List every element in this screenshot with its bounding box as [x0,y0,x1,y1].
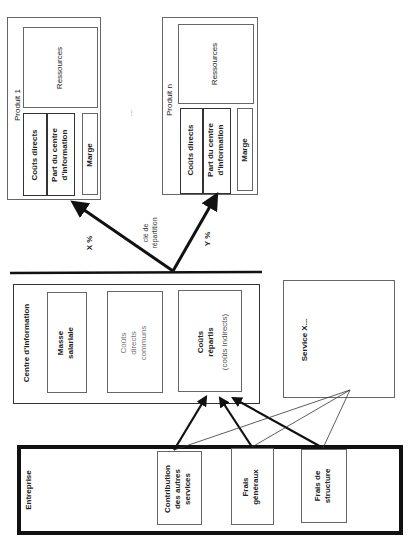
product-n-direct-costs-label: Coûts directs [186,115,196,185]
product-n-info-center-share-label: Part du centre d'information [206,115,228,185]
arrow-overhead-to-allocated [220,398,252,447]
payroll-line1: Masse [56,313,66,373]
payroll-line2: salariale [66,313,76,373]
allocated-line2: répartis [206,310,216,374]
common-direct-line2: directs [129,312,139,374]
contribution-label: Contribution des autres services [163,456,195,522]
product-1-info-share-line1: Part du centre [50,120,60,190]
service-x-title: Service X... [300,310,310,370]
product-1-info-share-line2: d'information [60,120,70,190]
company-title: Entreprise [24,465,34,515]
common-direct-costs-label: Coûts directs communs [119,312,151,374]
common-direct-line3: communs [139,312,149,374]
contribution-line2: des autres [173,456,183,522]
contribution-line3: services [183,456,193,522]
overhead-label: Frais généraux [241,457,263,517]
product-n-info-share-line1: Part du centre [206,115,216,185]
overhead-line2: généraux [251,457,261,517]
payroll-label: Masse salariale [56,313,78,373]
y-percent-label: Y % [203,224,213,254]
arrow-contribution-to-allocated [174,397,206,450]
product-1-info-center-share-label: Part du centre d'information [50,120,72,190]
structure-label: Frais de structure [313,456,335,516]
overhead-line1: Frais [241,457,251,517]
arrow-structure-to-allocated [233,398,323,448]
distribution-key-label: clé de répartition [141,208,161,258]
line-overhead-to-service [252,390,350,447]
product-n-margin-label: Marge [240,125,250,175]
distribution-key-line1: clé de [141,208,150,258]
products-ellipsis: ... [125,103,135,123]
line-structure-to-service [323,390,350,448]
product-1-title: Produit 1 [13,75,23,135]
structure-line1: Frais de [313,456,323,516]
product-n-info-share-line2: d'information [216,115,226,185]
distribution-key-line2: répartition [150,208,159,258]
product-1-direct-costs-label: Coûts directs [30,120,40,190]
allocated-line3: (coûts indirects) [220,310,230,374]
contribution-line1: Contribution [163,456,173,522]
allocated-line1: Coûts [196,310,206,374]
allocated-costs-label: Coûts répartis (coûts indirects) [196,310,228,374]
x-percent-label: X % [85,228,95,258]
info-center-title: Centre d'information [22,298,32,388]
product-n-title: Produit n [165,70,175,130]
structure-line2: structure [323,456,333,516]
distribution-bar [10,272,262,273]
product-1-margin-label: Marge [85,130,95,180]
product-1-resources-label: Ressources [55,38,65,98]
common-direct-line1: Coûts [119,312,129,374]
product-n-resources-label: Ressources [210,34,220,94]
